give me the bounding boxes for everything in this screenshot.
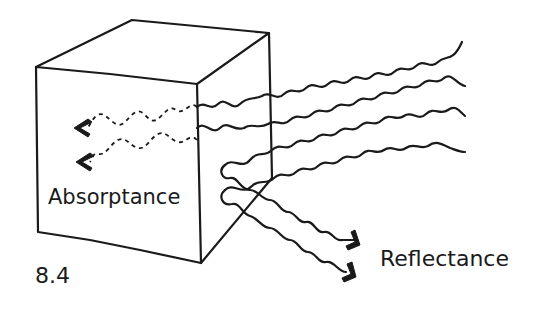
absorptance-label: Absorptance	[48, 185, 180, 209]
absorbed-wave-1	[88, 105, 197, 128]
incoming-wave-4	[225, 143, 465, 190]
absorbed-waves	[74, 105, 197, 171]
cube-front-face	[36, 67, 201, 263]
absorptance-reflectance-diagram: Absorptance Reflectance 8.4	[0, 0, 547, 313]
cube-top-face	[36, 20, 269, 84]
absorbed-wave-2	[90, 133, 197, 162]
absorbed-arrowhead-2	[76, 153, 94, 171]
cube	[36, 20, 272, 263]
cube-right-edge	[269, 33, 272, 178]
incoming-wave-2	[197, 76, 465, 130]
reflected-wave-2	[221, 190, 346, 272]
incoming-wave-1	[197, 42, 462, 107]
reflected-waves	[221, 165, 360, 282]
incoming-waves	[197, 42, 465, 190]
reflectance-label: Reflectance	[380, 246, 509, 271]
cube-bottom-edge	[201, 178, 272, 263]
absorbed-arrowhead-1	[74, 119, 92, 137]
figure-number: 8.4	[35, 263, 70, 288]
